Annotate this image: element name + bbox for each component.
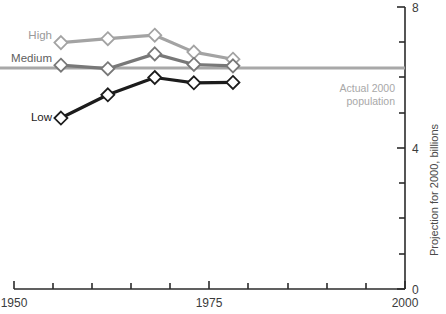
- series-label-medium: Medium: [11, 52, 52, 64]
- x-axis: [14, 281, 405, 289]
- data-point-marker: [101, 62, 114, 75]
- x-tick-label-2000: 2000: [392, 296, 419, 310]
- y-tick-label-0: 0: [412, 283, 419, 297]
- y-axis: [397, 7, 405, 289]
- series-label-low: Low: [31, 111, 53, 123]
- series-medium[interactable]: Medium: [11, 47, 239, 75]
- series-label-high: High: [28, 29, 52, 41]
- x-tick-label-1975: 1975: [196, 296, 223, 310]
- x-tick-label-1950: 1950: [1, 296, 28, 310]
- data-point-marker: [101, 32, 114, 45]
- population-projection-chart: 1950 1975 2000 8 4 0 Projection for 2000…: [0, 0, 446, 314]
- series-medium-markers: [54, 47, 239, 75]
- data-point-marker: [54, 112, 67, 125]
- actual-population-label-line1: Actual 2000: [340, 82, 396, 94]
- data-point-marker: [148, 71, 161, 84]
- data-point-marker: [148, 47, 161, 60]
- y-axis-title: Projection for 2000, billions: [428, 123, 440, 256]
- data-point-marker: [54, 59, 67, 72]
- data-point-marker: [101, 88, 114, 101]
- actual-population-label-line2: population: [347, 95, 396, 107]
- data-point-marker: [226, 76, 239, 89]
- y-tick-label-4: 4: [412, 142, 419, 156]
- series-low-line: [61, 78, 233, 119]
- data-point-marker: [54, 36, 67, 49]
- data-point-marker: [187, 46, 200, 59]
- series-low[interactable]: Low: [31, 71, 240, 125]
- data-point-marker: [187, 76, 200, 89]
- chart-canvas: 1950 1975 2000 8 4 0 Projection for 2000…: [0, 0, 446, 314]
- data-point-marker: [148, 29, 161, 42]
- y-tick-label-8: 8: [412, 1, 419, 15]
